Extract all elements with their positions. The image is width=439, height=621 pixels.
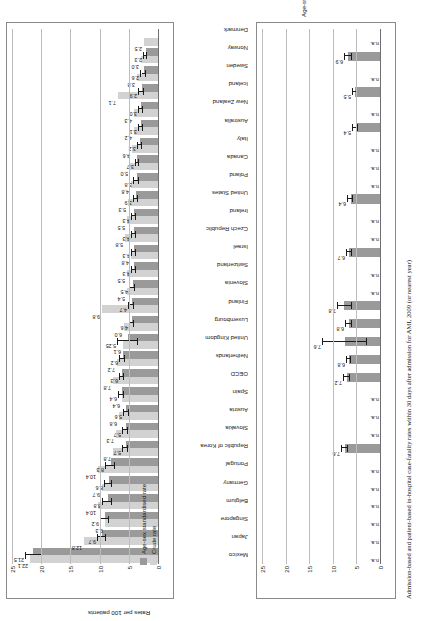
standardised-rate-bar: [126, 441, 159, 448]
country-label: Iceland: [229, 81, 248, 87]
bar-value-label: 6.2: [111, 360, 118, 366]
bar-value-label-crude: 5.8: [116, 242, 123, 248]
crude-rate-bar: [141, 56, 159, 63]
legend-label-standardised: Age-sex standardised rate: [141, 484, 147, 554]
legend-item-crude: Crude rate: [150, 484, 157, 565]
country-label: Spain: [233, 389, 248, 395]
error-bar-cap: [131, 249, 132, 256]
crude-rate-bar: [119, 412, 159, 419]
error-bar-cap: [345, 320, 346, 327]
not-available-label: n.a.: [370, 77, 379, 83]
rotated-page-wrapper: Admission-based rates (same hospital) 21…: [0, 0, 439, 621]
bar-value-label-crude: 5.0: [120, 171, 127, 177]
bar-column: 7.2: [263, 368, 381, 386]
standardised-rate-bar: [141, 102, 159, 109]
bar-column: 4.66.0: [13, 314, 159, 332]
bar-column: n.a.: [263, 511, 381, 529]
error-bar-cap: [346, 249, 347, 256]
standardised-rate-bar: [136, 191, 159, 198]
gridline: [309, 29, 310, 564]
bar-value-label: 4.5: [121, 289, 128, 295]
bar-column: 2.5: [13, 29, 159, 47]
legend: Age-sex standardised rate Crude rate: [140, 484, 160, 565]
error-bar-cap: [123, 373, 124, 380]
bar-column: 5.77.3: [13, 421, 159, 439]
error-bar-cap: [133, 302, 134, 309]
error-bar-cap: [124, 355, 125, 362]
standardised-rate-bar: [142, 84, 159, 91]
not-available-label: n.a.: [370, 166, 379, 172]
standardised-rate-bar: [132, 316, 159, 323]
axis-tick-label: 10: [98, 566, 104, 578]
standardised-rate-bar: [111, 458, 159, 465]
error-bar-cap: [351, 302, 352, 309]
bar-value-label: 9.7: [89, 539, 96, 545]
bar-value-label: 5.25: [106, 343, 116, 349]
not-available-label: n.a.: [370, 219, 379, 225]
bar-value-label: 5.5: [344, 94, 351, 100]
bar-column: 5.4: [263, 118, 381, 136]
patient-rate-bar: [348, 52, 381, 61]
bar-column: 4.55.4: [13, 279, 159, 297]
error-bar-cap: [137, 142, 138, 149]
crude-rate-bar: [102, 306, 159, 313]
admission-plot-area: 21.522.19.712.89.29.38.810.48.69.78.310.…: [13, 29, 159, 564]
bar-value-label-crude: 10.4: [86, 510, 96, 516]
error-bar-cap: [138, 88, 139, 95]
bar-column: 6.8: [263, 350, 381, 368]
error-bar-cap: [135, 249, 136, 256]
bar-value-label: 6.9: [336, 59, 343, 65]
bar-column: 6.9: [263, 47, 381, 65]
error-bar-cap: [133, 177, 134, 184]
error-bar: [323, 341, 367, 342]
error-bar-cap: [97, 534, 98, 541]
error-bar-cap: [352, 124, 353, 131]
patient-rate-bar: [356, 123, 381, 132]
error-bar-cap: [142, 124, 143, 131]
error-bar-cap: [104, 480, 105, 487]
bar-value-label-crude: 6.0: [115, 332, 122, 338]
bar-value-label-crude: 5.5: [118, 225, 125, 231]
country-label: Switzerland: [217, 262, 248, 268]
error-bar-cap: [123, 391, 124, 398]
axis-tick-label: 15: [307, 566, 313, 578]
error-bar: [26, 554, 42, 555]
error-bar-cap: [138, 177, 139, 184]
not-available-label: n.a.: [370, 398, 379, 404]
standardised-rate-bar: [122, 369, 159, 376]
axis-tick-label: 5: [354, 566, 360, 578]
bar-column: 3.75.0: [13, 154, 159, 172]
error-bar-cap: [143, 88, 144, 95]
bar-value-label-crude: 5.5: [118, 278, 125, 284]
country-label: United Kingdom: [205, 335, 248, 341]
error-bar-cap: [111, 498, 112, 505]
bar-column: n.a.: [263, 457, 381, 475]
bar-value-label-crude: 5.3: [119, 207, 126, 213]
country-label: Ireland: [230, 208, 248, 214]
bar-value-label: 3.7: [126, 164, 133, 170]
not-available-label: n.a.: [370, 41, 379, 47]
axis-tick-label: 15: [68, 566, 74, 578]
error-bar-cap: [141, 142, 142, 149]
error-bar-cap: [138, 159, 139, 166]
country-label: Germany: [223, 480, 248, 486]
standardised-rate-bar: [109, 476, 159, 483]
country-label-band: MexicoJapanSingaporeBelgiumGermanyPortug…: [180, 22, 250, 565]
bar-value-label: 6.8: [338, 362, 345, 368]
admission-bar-columns: 21.522.19.712.89.29.38.810.48.69.78.310.…: [13, 29, 159, 564]
gridline: [380, 29, 381, 564]
country-label: Czech Republic: [206, 226, 248, 232]
error-bar-cap: [135, 231, 136, 238]
country-label: United States: [212, 190, 248, 196]
error-bar-cap: [143, 52, 144, 59]
error-bar-cap: [122, 445, 123, 452]
gridline: [356, 29, 357, 564]
bar-column: n.a.: [263, 261, 381, 279]
bar-value-label: 3.1: [129, 129, 136, 135]
country-label: Australia: [225, 118, 248, 124]
bar-value-label: 6.4: [339, 201, 346, 207]
error-bar-cap: [142, 106, 143, 113]
bar-value-label: 5.7: [114, 450, 121, 456]
bar-column: 2.97.1: [13, 83, 159, 101]
error-bar-cap: [137, 338, 138, 345]
